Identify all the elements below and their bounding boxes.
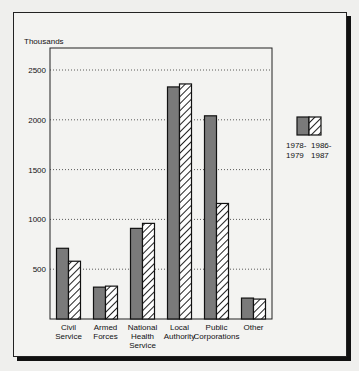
bar-1986-1987-civil-service: [69, 261, 81, 319]
y-tick-label: 2000: [28, 116, 46, 125]
legend-label: 1978-: [286, 141, 307, 150]
bar-1978-1979-public-corporations: [205, 116, 217, 319]
bar-1978-1979-civil-service: [57, 248, 69, 319]
bar-1986-1987-other: [254, 299, 266, 319]
y-ticks: 5001000150020002500: [28, 66, 46, 274]
x-tick-label: Forces: [93, 332, 117, 341]
legend-swatch: [297, 117, 309, 135]
y-axis-label: Thousands: [24, 37, 64, 46]
bar-1978-1979-local-authority: [168, 87, 180, 319]
x-tick-label: Corporations: [194, 332, 240, 341]
legend-swatch: [309, 117, 321, 135]
x-tick-labels: CivilServiceArmedForcesNationalHealthSer…: [55, 323, 264, 350]
x-tick-label: Other: [243, 323, 263, 332]
y-tick-label: 1000: [28, 215, 46, 224]
y-tick-label: 2500: [28, 66, 46, 75]
legend-label: 1987: [311, 151, 329, 160]
gridlines: [50, 70, 272, 269]
bar-1978-1979-other: [242, 298, 254, 319]
bar-1978-1979-national-health-service: [131, 228, 143, 319]
y-tick-label: 1500: [28, 166, 46, 175]
x-tick-label: Civil: [61, 323, 76, 332]
x-tick-label: Service: [129, 341, 156, 350]
x-tick-label: Local: [170, 323, 189, 332]
bar-1986-1987-local-authority: [180, 84, 192, 319]
legend-label: 1986-: [311, 141, 332, 150]
x-tick-label: Armed: [94, 323, 118, 332]
x-tick-label: Service: [55, 332, 82, 341]
bar-chart: Thousands 5001000150020002500 CivilServi…: [0, 0, 359, 371]
bar-1986-1987-national-health-service: [143, 223, 155, 319]
x-tick-label: National: [128, 323, 158, 332]
bar-1978-1979-armed-forces: [94, 287, 106, 319]
bar-1986-1987-public-corporations: [217, 203, 229, 319]
x-tick-label: Health: [131, 332, 154, 341]
legend-label: 1979: [286, 151, 304, 160]
bar-1986-1987-armed-forces: [106, 286, 118, 319]
plot-area: [50, 48, 272, 319]
x-tick-label: Authority: [164, 332, 196, 341]
legend: 1978-19791986-1987: [286, 117, 332, 160]
x-tick-label: Public: [206, 323, 228, 332]
bars: [57, 84, 266, 319]
y-tick-label: 500: [33, 265, 47, 274]
